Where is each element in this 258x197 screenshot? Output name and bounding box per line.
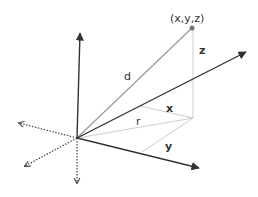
negative-x-axis [19,123,77,138]
r-label: r [136,115,141,128]
negative-y-axis [25,138,77,166]
x-axis [77,52,246,138]
x-label: x [166,102,173,115]
z-label: z [199,44,205,57]
d-label: d [124,70,131,83]
z-axis [77,33,80,138]
coordinate-diagram: (x,y,z) d z x r y [0,0,258,197]
point-marker [190,26,195,31]
y-label: y [165,140,172,153]
y-axis [77,138,199,168]
point-label: (x,y,z) [170,12,204,25]
